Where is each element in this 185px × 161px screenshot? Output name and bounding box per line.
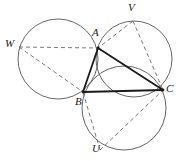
segment-w-to-a <box>19 47 98 48</box>
geometry-figure: A B C W V U <box>0 0 185 161</box>
point-label-v: V <box>128 2 135 13</box>
point-label-a: A <box>92 27 99 38</box>
point-label-b: B <box>75 96 82 107</box>
vertex-dot-c <box>162 89 165 92</box>
segment-u-to-c <box>100 90 163 150</box>
triangle-group <box>83 48 163 92</box>
vertex-dot-b <box>82 91 85 94</box>
segment-a-to-b <box>83 48 98 92</box>
point-label-c: C <box>166 83 173 94</box>
point-label-u: U <box>92 143 100 154</box>
segment-v-to-a <box>98 21 133 48</box>
circles-group <box>18 19 172 150</box>
circle-through-a-b-w <box>18 19 98 99</box>
vertex-dots-group <box>82 47 165 94</box>
geometry-canvas <box>0 0 185 161</box>
circle-through-b-c-u <box>82 66 166 150</box>
segment-w-to-b <box>19 47 83 92</box>
segment-b-to-c <box>83 90 163 92</box>
dashed-segments-group <box>19 21 163 150</box>
point-label-w: W <box>5 38 14 49</box>
vertex-dot-a <box>97 47 100 50</box>
